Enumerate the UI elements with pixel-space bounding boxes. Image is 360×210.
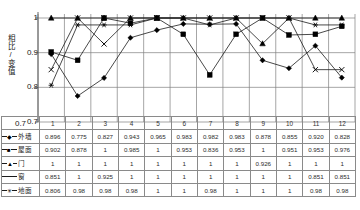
axis-origin-label: 0.7 (2, 117, 40, 130)
legend-line-sample (2, 176, 17, 177)
table-cell: 0.926 (250, 157, 276, 170)
table-cell: 0.98 (329, 183, 355, 196)
table-cell: 0.953 (224, 143, 250, 156)
data-point-marker (287, 33, 292, 38)
legend-line-sample: ✳ (2, 190, 17, 191)
table-cell: 0.98 (197, 183, 223, 196)
column-header-12: 12 (329, 117, 355, 130)
table-header-row: 0.7 123456789101112 (2, 117, 356, 130)
data-point-marker (49, 83, 54, 88)
table-row: 窗0.85110.92511111110.8510.851 (2, 170, 356, 183)
table-cell: 1 (250, 143, 276, 156)
table-row: ■屋面0.9020.87810.98510.9530.8360.95310.95… (2, 143, 356, 156)
table-cell: 0.98 (92, 183, 118, 196)
column-header-2: 2 (66, 117, 92, 130)
column-header-9: 9 (250, 117, 276, 130)
table-cell: 1 (145, 143, 171, 156)
table-cell: 0.920 (303, 130, 329, 143)
table-cell: 0.851 (303, 170, 329, 183)
legend-line-sample: ■ (2, 149, 17, 150)
data-point-marker (101, 23, 106, 28)
data-point-marker (313, 32, 318, 37)
table-cell: 1 (40, 157, 66, 170)
line-chart: 相比/变值 10.90.80.7 (0, 0, 360, 124)
table-cell: 0.953 (303, 143, 329, 156)
table-row: ▲门111111110.926111 (2, 157, 356, 170)
table-cell: 0.925 (92, 170, 118, 183)
table-cell: 0.896 (40, 130, 66, 143)
data-point-marker (154, 28, 159, 33)
asterisk-marker-icon: ✳ (7, 188, 12, 194)
data-point-marker (128, 35, 133, 40)
table-cell: 1 (92, 143, 118, 156)
data-point-marker (49, 50, 54, 55)
table-cell: 0.98 (303, 183, 329, 196)
legend-label: 外墙 (18, 133, 32, 140)
column-header-3: 3 (92, 117, 118, 130)
table-cell: 1 (118, 170, 144, 183)
table-cell: 1 (92, 157, 118, 170)
legend-item-屋面[interactable]: ■屋面 (2, 143, 40, 156)
column-header-6: 6 (171, 117, 197, 130)
table-cell: 1 (276, 170, 302, 183)
data-point-marker (75, 93, 80, 98)
column-header-7: 7 (197, 117, 223, 130)
column-header-10: 10 (276, 117, 302, 130)
table-cell: 1 (224, 170, 250, 183)
data-table-container: 0.7 123456789101112 ◆外墙0.8960.7750.8270.… (0, 116, 360, 197)
table-cell: 1 (224, 183, 250, 196)
table-cell: 0.985 (118, 143, 144, 156)
table-cell: 1 (66, 157, 92, 170)
legend-label: 门 (18, 160, 25, 167)
table-cell: 0.878 (250, 130, 276, 143)
data-point-marker (75, 23, 80, 28)
data-point-marker (101, 41, 106, 46)
table-cell: 1 (250, 170, 276, 183)
data-point-marker (101, 75, 106, 80)
table-cell: 1 (145, 157, 171, 170)
table-cell: 0.98 (118, 183, 144, 196)
table-cell: 0.827 (92, 130, 118, 143)
table-cell: 1 (171, 183, 197, 196)
data-point-marker (207, 72, 212, 77)
table-cell: 1 (66, 170, 92, 183)
table-cell: 1 (118, 157, 144, 170)
table-cell: 0.775 (66, 130, 92, 143)
column-header-1: 1 (40, 117, 66, 130)
table-cell: 1 (145, 183, 171, 196)
table-cell: 1 (197, 170, 223, 183)
legend-item-外墙[interactable]: ◆外墙 (2, 130, 40, 143)
table-cell: 0.983 (224, 130, 250, 143)
table-cell: 1 (276, 157, 302, 170)
table-cell: 0.976 (329, 143, 355, 156)
table-cell: 1 (224, 157, 250, 170)
legend-label: 屋面 (18, 146, 32, 153)
table-cell: 0.878 (66, 143, 92, 156)
table-cell: 1 (171, 157, 197, 170)
legend-item-窗[interactable]: 窗 (2, 170, 40, 183)
table-cell: 1 (303, 157, 329, 170)
table-cell: 0.806 (40, 183, 66, 196)
legend-line-sample: ▲ (2, 163, 17, 164)
table-row: ◆外墙0.8960.7750.8270.9430.9650.9830.9820.… (2, 130, 356, 143)
data-point-marker (181, 32, 186, 37)
data-point-marker (234, 32, 239, 37)
legend-item-地面[interactable]: ✳地面 (2, 183, 40, 196)
plot-area (0, 0, 360, 124)
table-cell: 1 (329, 157, 355, 170)
column-header-8: 8 (224, 117, 250, 130)
table-cell: 0.943 (118, 130, 144, 143)
table-cell: 0.851 (40, 170, 66, 183)
table-cell: 1 (276, 183, 302, 196)
square-marker-icon: ■ (7, 147, 11, 153)
table-cell: 1 (171, 170, 197, 183)
column-header-5: 5 (145, 117, 171, 130)
table-cell: 1 (145, 170, 171, 183)
table-cell: 0.828 (329, 130, 355, 143)
table-cell: 0.953 (171, 143, 197, 156)
chart-page: 相比/变值 10.90.80.7 0.7 123456789101112 ◆外墙… (0, 0, 360, 210)
data-point-marker (75, 58, 80, 63)
legend-item-门[interactable]: ▲门 (2, 157, 40, 170)
table-cell: 0.902 (40, 143, 66, 156)
triangle-marker-icon: ▲ (7, 161, 13, 167)
